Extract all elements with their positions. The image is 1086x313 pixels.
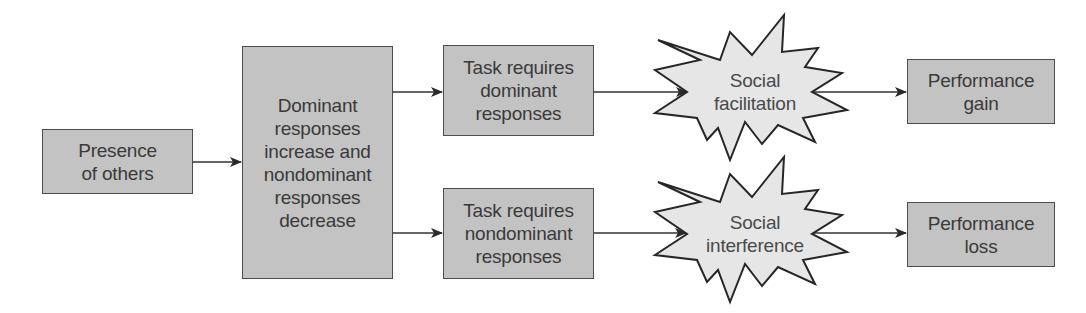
social-facilitation-diagram: Presence of others Dominant responses in… [0, 0, 1086, 313]
dominant-responses-box: Dominant responses increase and nondomin… [242, 46, 393, 279]
presence-of-others-label: Presence of others [78, 139, 157, 185]
performance-gain-box: Performance gain [907, 59, 1055, 124]
task-dominant-label: Task requires dominant responses [463, 56, 573, 125]
presence-of-others-box: Presence of others [42, 129, 193, 194]
dominant-responses-label: Dominant responses increase and nondomin… [264, 94, 372, 232]
task-nondominant-box: Task requires nondominant responses [443, 188, 594, 279]
social-facilitation-label: Social facilitation [695, 60, 815, 124]
task-dominant-box: Task requires dominant responses [443, 45, 594, 136]
task-nondominant-label: Task requires nondominant responses [463, 199, 573, 268]
performance-gain-label: Performance gain [928, 69, 1035, 115]
performance-loss-label: Performance loss [928, 212, 1035, 258]
social-interference-label: Social interference [690, 202, 820, 266]
performance-loss-box: Performance loss [907, 202, 1055, 267]
